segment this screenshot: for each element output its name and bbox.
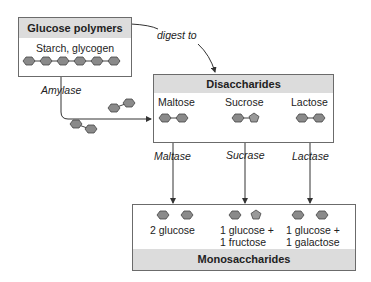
molecule-shapes xyxy=(0,0,371,282)
lactose-icon xyxy=(296,114,325,122)
sucrose-icon xyxy=(232,113,259,122)
free-maltose-icon xyxy=(70,99,135,133)
glucose-glucose-icon xyxy=(157,211,193,219)
glucose-chain-icon xyxy=(23,57,120,65)
glucose-fructose-icon xyxy=(229,210,261,219)
maltose-icon xyxy=(159,114,188,122)
glucose-galactose-icon xyxy=(292,211,328,219)
